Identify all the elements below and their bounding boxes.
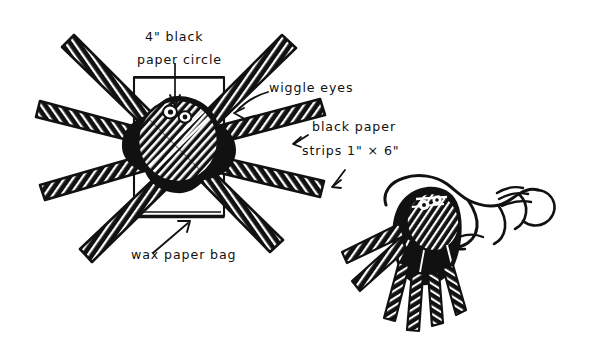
label-circle-line2: paper circle xyxy=(137,52,222,67)
label-circle-line1: 4" black xyxy=(145,29,203,44)
label-strips-line2: strips 1" × 6" xyxy=(302,143,400,158)
craft-diagram-svg: 4" black paper circle wiggle eyes black … xyxy=(0,0,591,348)
label-wiggle-eyes: wiggle eyes xyxy=(269,80,353,95)
label-wax-paper-bag: wax paper bag xyxy=(131,247,237,262)
illustration-root: 4" black paper circle wiggle eyes black … xyxy=(0,0,591,348)
black-paper-circle xyxy=(138,100,220,182)
label-strips-line1: black paper xyxy=(312,119,396,134)
